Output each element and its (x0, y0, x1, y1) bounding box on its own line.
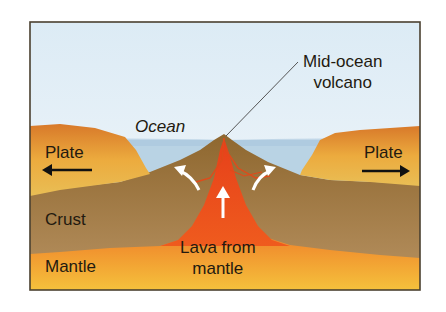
plate-left-label: Plate (45, 143, 84, 163)
lava-label-line2: mantle (180, 258, 256, 279)
volcano-label: Mid-ocean volcano (303, 51, 382, 93)
lava-label-line1: Lava from (180, 237, 256, 258)
lava-label: Lava from mantle (180, 237, 256, 279)
plate-right-label: Plate (364, 143, 403, 163)
mid-ocean-ridge-diagram: Mid-ocean volcano Ocean Plate Plate Crus… (0, 0, 446, 312)
crust-label: Crust (45, 210, 86, 230)
ocean-label: Ocean (135, 117, 185, 137)
volcano-label-line1: Mid-ocean (303, 51, 382, 72)
mantle-label: Mantle (45, 257, 96, 277)
volcano-label-line2: volcano (303, 72, 382, 93)
